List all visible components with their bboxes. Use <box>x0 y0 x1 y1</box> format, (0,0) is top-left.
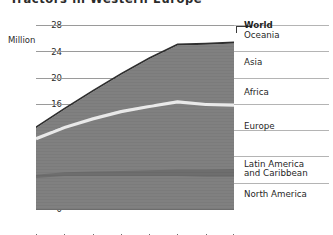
series-label-asia: Asia <box>244 58 262 68</box>
gridline-ext-24 <box>234 51 329 52</box>
gridline-ext-4 <box>234 183 329 184</box>
series-label-europe: Europe <box>244 122 275 132</box>
gridline-ext-20 <box>234 78 329 79</box>
plot-area: 1963 1968 1973 1978 1983 1988 1993 1998 <box>36 25 234 209</box>
stacked-area-svg <box>36 25 234 211</box>
x-tick-1963 <box>36 234 37 235</box>
page-title: Tractors in Western Europe <box>10 0 270 5</box>
x-tick-1983 <box>149 234 150 235</box>
x-tick-1968 <box>64 234 65 235</box>
x-tick-1978 <box>121 234 122 235</box>
gridline-ext-8 <box>234 156 329 157</box>
series-label-north-america: North America <box>244 190 307 200</box>
chart-title-clipped: Tractors in Western Europe <box>10 0 270 5</box>
series-label-oceania: Oceania <box>244 31 280 41</box>
gridline-ext-16 <box>234 104 329 105</box>
x-tick-1988 <box>177 234 178 235</box>
series-label-africa: Africa <box>244 88 269 98</box>
x-tick-1998 <box>233 234 234 235</box>
chart-container: Tractors in Western Europe 28 Million 24… <box>0 0 333 235</box>
series-label-latin-america-line2: and Caribbean <box>244 169 308 179</box>
y-axis-unit-label: Million <box>8 36 35 45</box>
leader-tick-world <box>236 26 237 33</box>
x-tick-1993 <box>206 234 207 235</box>
x-tick-1973 <box>93 234 94 235</box>
